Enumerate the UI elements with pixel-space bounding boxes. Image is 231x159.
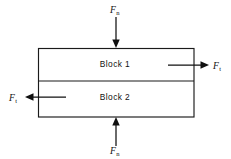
block-1-label: Block 1 [100,59,130,69]
force-diagram-figure: Block 1 Block 2 Fn Ft Ft Fn [0,0,231,159]
block-2-label: Block 2 [100,92,130,102]
force-diagram-canvas: Block 1 Block 2 Fn Ft Ft Fn [0,0,231,159]
